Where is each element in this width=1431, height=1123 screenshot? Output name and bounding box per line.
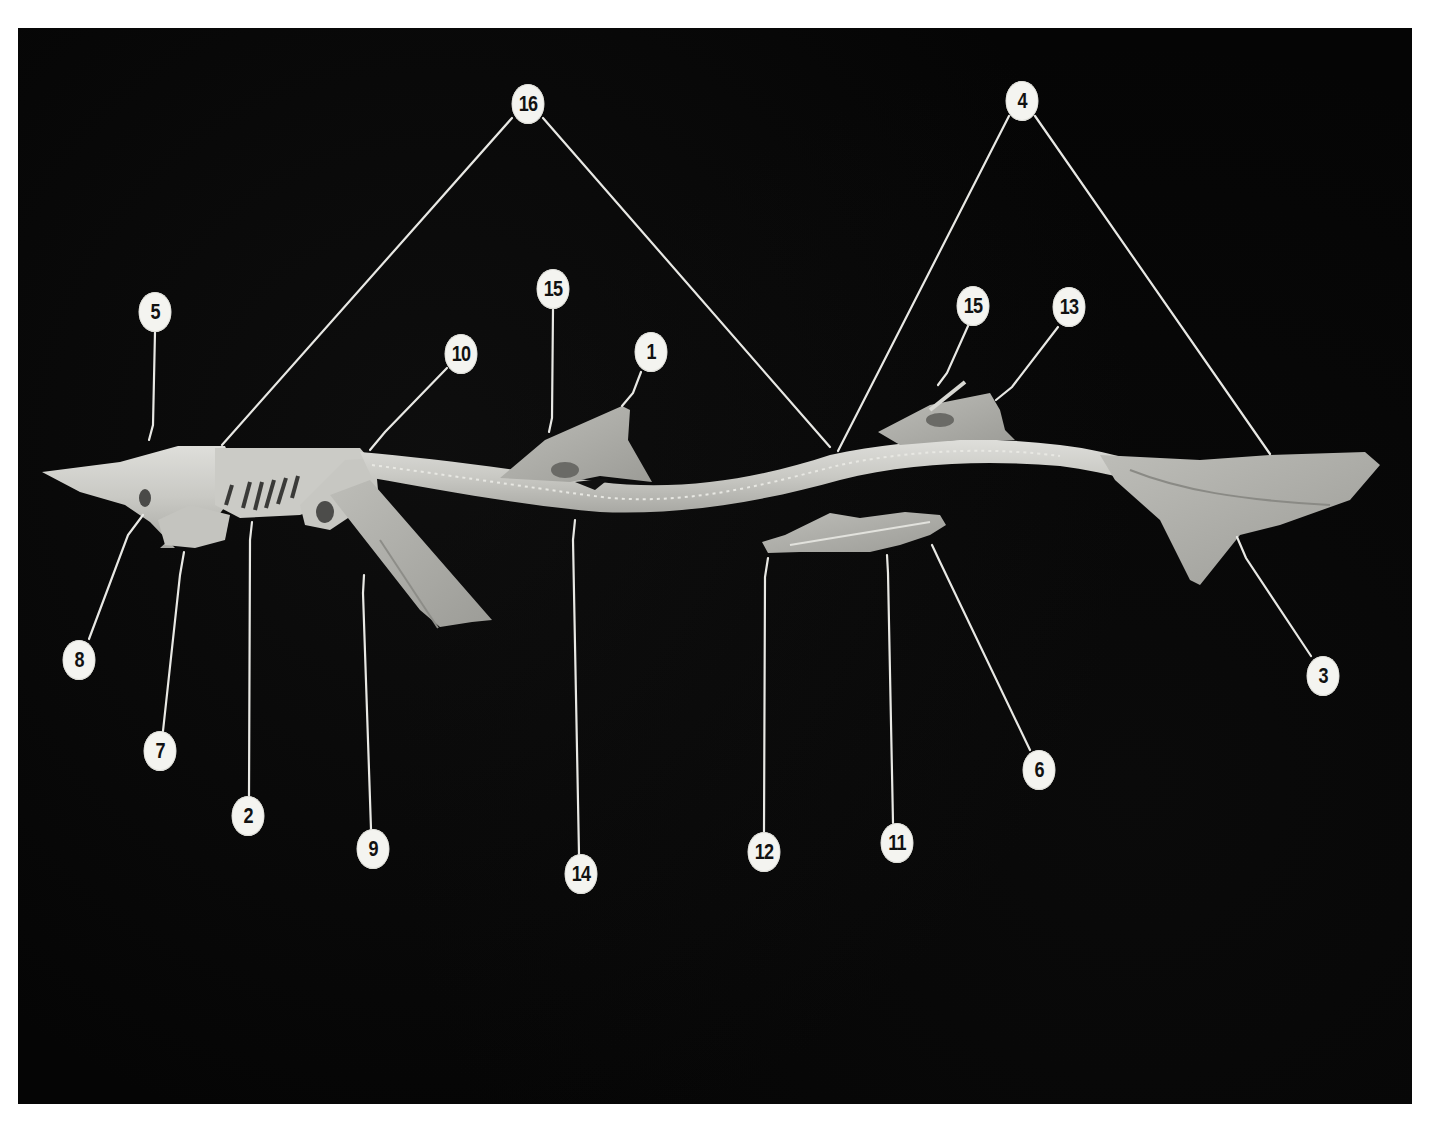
callout-14[interactable]: 14 <box>565 854 598 894</box>
leader-line-15b <box>938 326 968 385</box>
leader-line-16-right <box>543 118 830 447</box>
leader-line-10 <box>370 368 447 450</box>
callout-12[interactable]: 12 <box>748 832 781 872</box>
leader-line-8 <box>89 515 143 639</box>
callout-15-first-dorsal[interactable]: 15 <box>537 269 570 309</box>
callout-4[interactable]: 4 <box>1006 81 1039 121</box>
leader-line-13 <box>996 327 1058 400</box>
leader-line-6 <box>932 545 1030 750</box>
specimen-illustration <box>0 0 1431 1123</box>
leader-line-15a <box>549 309 553 432</box>
vertebral-column <box>360 440 1205 513</box>
leader-line-5 <box>149 332 155 440</box>
callout-13[interactable]: 13 <box>1053 287 1086 327</box>
leader-line-7 <box>163 552 184 731</box>
callout-2[interactable]: 2 <box>232 796 265 836</box>
caudal-fin <box>1100 452 1380 585</box>
callout-11[interactable]: 11 <box>881 823 914 863</box>
callout-3[interactable]: 3 <box>1307 656 1340 696</box>
leader-line-14 <box>573 520 579 854</box>
callout-9[interactable]: 9 <box>357 829 390 869</box>
callout-15-second-dorsal[interactable]: 15 <box>957 286 990 326</box>
first-dorsal-fin <box>500 406 652 490</box>
callout-16[interactable]: 16 <box>512 84 545 124</box>
pelvic-fin-clasper <box>762 512 946 553</box>
callout-7[interactable]: 7 <box>144 731 177 771</box>
callout-5[interactable]: 5 <box>139 292 172 332</box>
callout-10[interactable]: 10 <box>445 334 478 374</box>
leader-line-1 <box>622 372 641 406</box>
second-dorsal-fin <box>878 382 1015 445</box>
leader-line-16-left <box>222 118 512 445</box>
leader-line-4-right <box>1035 116 1270 454</box>
callout-6[interactable]: 6 <box>1023 750 1056 790</box>
callout-8[interactable]: 8 <box>63 640 96 680</box>
callout-1[interactable]: 1 <box>635 332 668 372</box>
leader-line-11 <box>887 555 893 823</box>
leader-line-3 <box>1237 537 1311 656</box>
skull <box>42 446 236 548</box>
leader-line-12 <box>764 558 768 832</box>
leader-line-9 <box>363 575 371 829</box>
leader-line-2 <box>249 522 252 796</box>
